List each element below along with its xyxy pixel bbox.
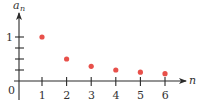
x-axis-label: n [189, 74, 196, 87]
data-point-n5 [138, 70, 143, 75]
y-axis-label: a [13, 0, 20, 12]
data-point-n1 [39, 34, 44, 39]
x-tick-label-4: 4 [113, 89, 120, 102]
data-point-n3 [89, 64, 94, 69]
x-tick-label-2: 2 [63, 89, 70, 102]
origin-label: 0 [8, 84, 15, 97]
x-tick-label-6: 6 [162, 89, 169, 102]
x-tick-label-5: 5 [137, 89, 144, 102]
y-axis-label-subscript: n [20, 4, 25, 13]
y-tick-label-1: 1 [6, 31, 13, 44]
sequence-plot: a n n 0 1 123456 [0, 0, 198, 106]
data-point-n4 [113, 67, 118, 72]
x-tick-label-3: 3 [88, 89, 95, 102]
data-point-n2 [64, 56, 69, 61]
data-point-n6 [162, 71, 167, 76]
data-points [39, 34, 167, 76]
x-tick-label-1: 1 [39, 89, 46, 102]
